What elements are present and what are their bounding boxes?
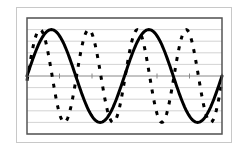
line-chart	[0, 0, 241, 150]
